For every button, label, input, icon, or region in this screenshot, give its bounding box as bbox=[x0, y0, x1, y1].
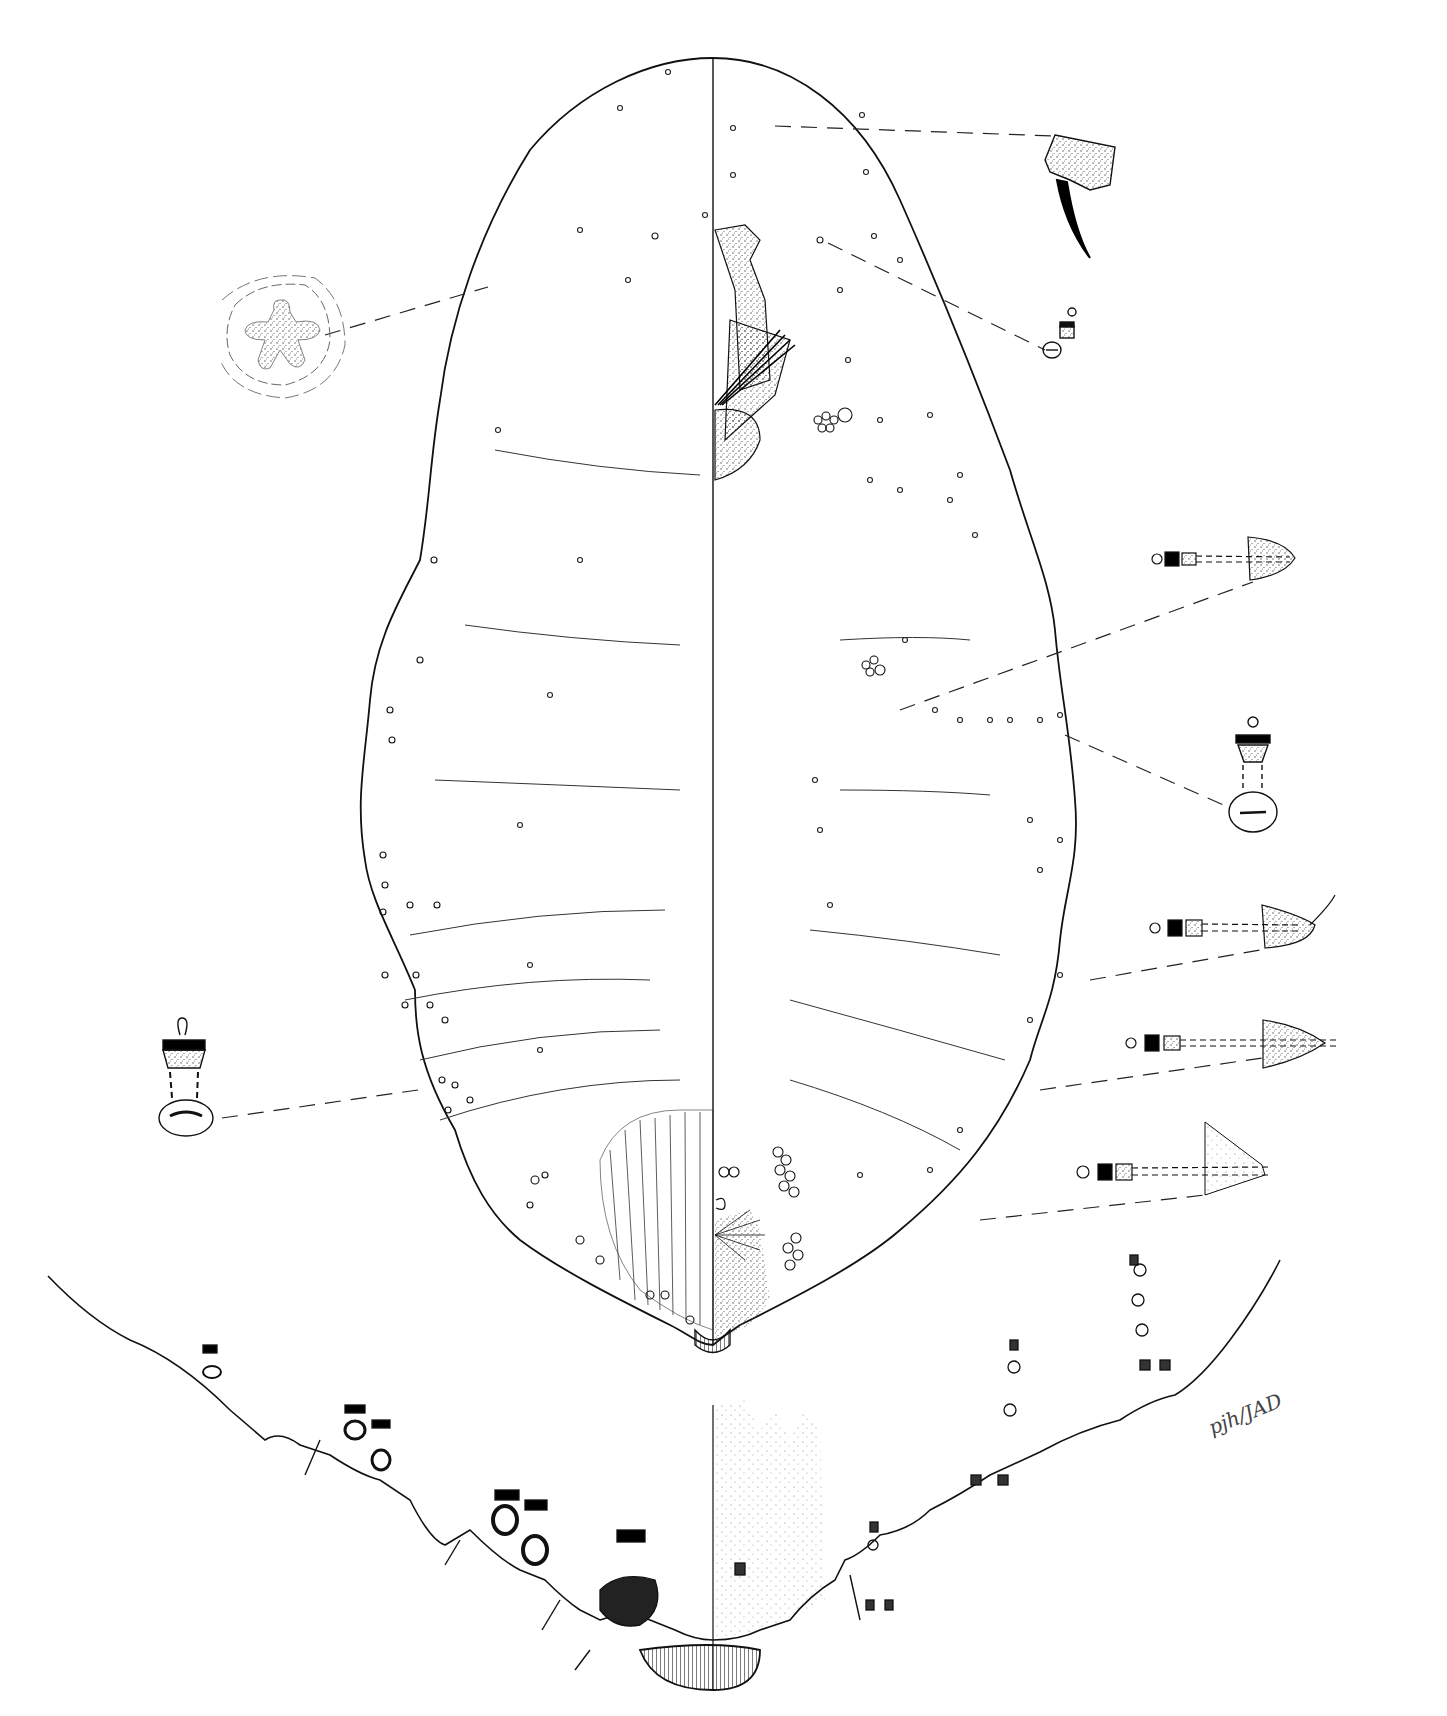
marginal-pore-icon bbox=[380, 557, 694, 1324]
detail-cerarius-2 bbox=[1126, 1020, 1340, 1068]
scale-insect-illustration: pjh/JAD bbox=[0, 0, 1447, 1716]
duct-icon bbox=[203, 1255, 1170, 1626]
setae-and-pores bbox=[380, 70, 1063, 1325]
claw-icon bbox=[1057, 180, 1090, 258]
anal-lobe-enlarged bbox=[640, 1645, 760, 1690]
detail-tubular-duct-1 bbox=[1152, 537, 1295, 580]
enlarged-posterior bbox=[48, 1260, 1280, 1690]
body-outline bbox=[361, 58, 1076, 1345]
pore-cluster-icon bbox=[773, 408, 885, 1270]
detail-claw bbox=[1045, 135, 1115, 258]
detail-cerarius-1 bbox=[1150, 895, 1335, 948]
seta-icon bbox=[496, 70, 1063, 1178]
anal-region bbox=[600, 1110, 770, 1353]
ventral-stipple-area bbox=[716, 1400, 825, 1640]
detail-cerarius-3 bbox=[1077, 1122, 1268, 1195]
detail-tubular-duct-2 bbox=[1229, 717, 1277, 832]
main-body bbox=[361, 58, 1076, 1345]
detail-small-duct bbox=[1043, 308, 1076, 358]
artist-signature: pjh/JAD bbox=[1205, 1388, 1285, 1439]
pore-star-icon bbox=[245, 300, 320, 369]
detail-dorsal-duct bbox=[159, 1018, 213, 1136]
segment-lines bbox=[405, 450, 1005, 1150]
mouthparts bbox=[715, 225, 795, 480]
detail-multilocular-pore bbox=[220, 276, 345, 398]
